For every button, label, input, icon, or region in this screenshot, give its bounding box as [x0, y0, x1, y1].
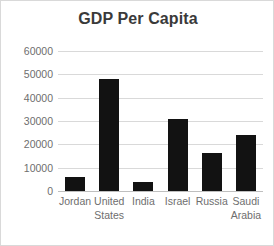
chart-container: GDP Per Capita 0100002000030000400005000…: [0, 0, 274, 246]
y-axis-tick-label: 20000: [1, 138, 53, 150]
bar: [99, 79, 119, 191]
y-axis-tick-label: 30000: [1, 115, 53, 127]
y-axis-tick-labels: 0100002000030000400005000060000: [1, 51, 53, 191]
gridline: [58, 144, 263, 145]
x-axis-tick-label: India: [126, 194, 160, 208]
y-axis-tick-label: 50000: [1, 68, 53, 80]
gridline: [58, 51, 263, 52]
bar: [133, 182, 153, 191]
y-axis-tick-label: 40000: [1, 92, 53, 104]
plot-area: [58, 51, 263, 191]
x-axis-tick-label: Jordan: [58, 194, 92, 208]
x-axis-tick-label: United States: [92, 194, 126, 222]
bar: [202, 153, 222, 192]
bar: [65, 177, 85, 191]
x-axis-tick-label: Russia: [195, 194, 229, 208]
x-axis-line: [58, 191, 263, 192]
x-axis-tick-label: Saudi Arabia: [229, 194, 263, 222]
chart-title: GDP Per Capita: [1, 10, 274, 28]
gridline: [58, 121, 263, 122]
y-axis-tick-label: 60000: [1, 45, 53, 57]
bar: [236, 135, 256, 191]
y-axis-tick-label: 10000: [1, 162, 53, 174]
x-axis-tick-labels: JordanUnited StatesIndiaIsraelRussiaSaud…: [45, 194, 273, 244]
x-axis-tick-label: Israel: [161, 194, 195, 208]
gridline: [58, 74, 263, 75]
bar: [168, 119, 188, 191]
gridline: [58, 98, 263, 99]
gridline: [58, 168, 263, 169]
